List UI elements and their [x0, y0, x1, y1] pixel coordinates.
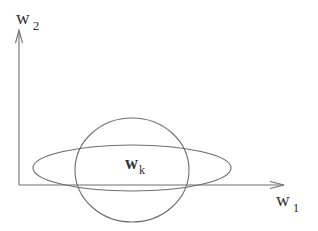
y-axis-label-main: w: [16, 7, 30, 28]
x-axis-label-subscript: 1: [293, 200, 300, 215]
y-axis-label-subscript: 2: [33, 18, 40, 33]
center-point-label-main: w: [125, 153, 138, 173]
center-point-label: wk: [125, 154, 145, 172]
diagram-canvas: [0, 0, 318, 231]
x-axis-label: w1: [276, 190, 299, 209]
x-axis-label-main: w: [276, 189, 290, 210]
center-point-label-subscript: k: [139, 163, 145, 177]
y-axis-label: w2: [16, 8, 39, 27]
